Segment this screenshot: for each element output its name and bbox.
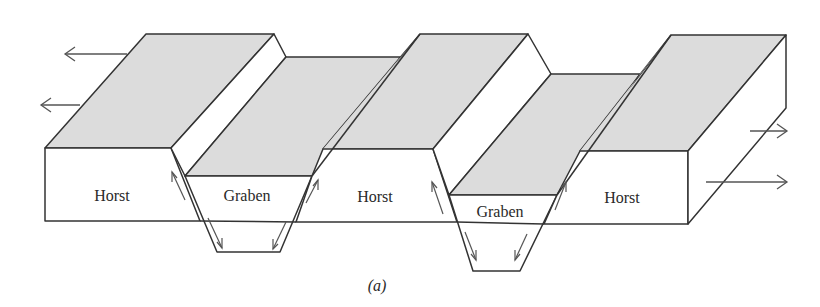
figure-caption: (a) <box>368 277 387 295</box>
label-graben-1: Graben <box>223 187 270 205</box>
label-graben-2: Graben <box>476 203 523 221</box>
label-horst-3: Horst <box>604 189 640 207</box>
label-horst-2: Horst <box>357 188 393 206</box>
label-horst-1: Horst <box>94 187 130 205</box>
block-diagram <box>0 0 820 307</box>
horst-graben-diagram: Horst Graben Horst Graben Horst (a) <box>0 0 820 307</box>
